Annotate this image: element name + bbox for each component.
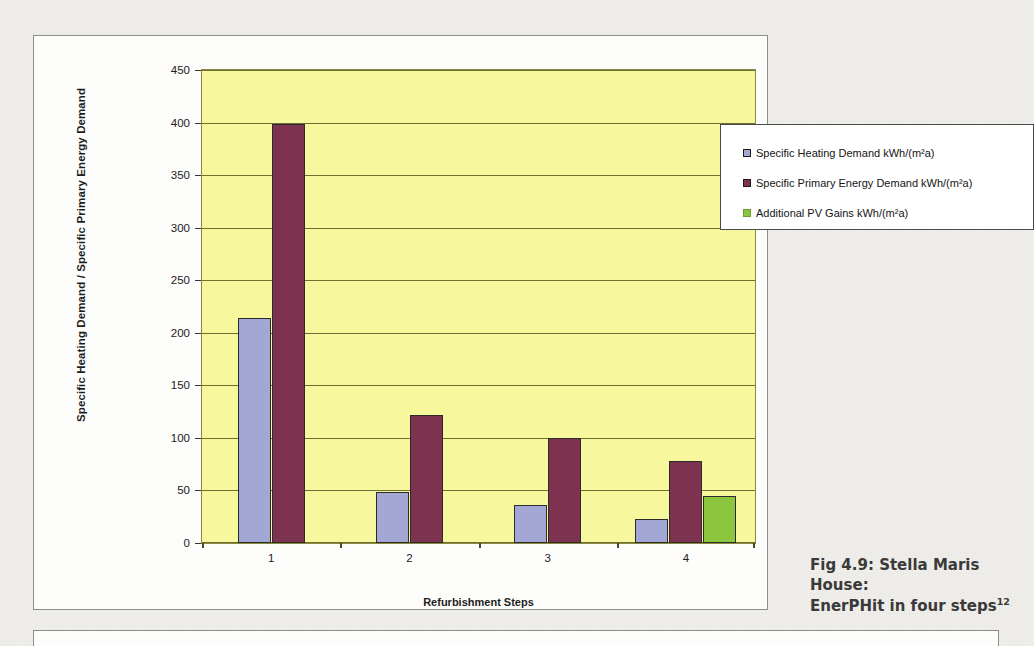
y-axis-tick-label: 150 <box>171 379 190 391</box>
y-axis-title: Specific Heating Demand / Specific Prima… <box>75 92 87 422</box>
x-axis-tick <box>479 543 481 548</box>
legend-swatch-icon <box>743 149 751 157</box>
legend-item-pv-gains: Additional PV Gains kWh/(m²a) <box>743 198 1033 228</box>
bar <box>410 415 443 543</box>
figure-frame: Specific Heating Demand / Specific Prima… <box>33 35 768 610</box>
figure-caption: Fig 4.9: Stella Maris House: EnerPHit in… <box>810 556 1025 616</box>
legend-swatch-icon <box>743 209 751 217</box>
gridline <box>202 70 755 71</box>
plot-area: 0501001502002503003504004501234 <box>201 69 756 544</box>
legend-item-primary-energy-demand: Specific Primary Energy Demand kWh/(m²a) <box>743 168 1033 198</box>
bar <box>635 519 668 543</box>
chart-legend: Specific Heating Demand kWh/(m²a) Specif… <box>720 124 1034 230</box>
x-axis-tick <box>340 543 342 548</box>
caption-line-2: EnerPHit in four steps <box>810 597 997 615</box>
x-axis-tick-label: 4 <box>683 552 689 564</box>
y-axis-tick <box>195 70 201 71</box>
x-axis-tick <box>202 543 204 548</box>
legend-item-heating-demand: Specific Heating Demand kWh/(m²a) <box>743 138 1033 168</box>
x-axis-title: Refurbishment Steps <box>201 596 756 608</box>
bar <box>669 461 702 543</box>
y-axis-tick <box>195 123 201 124</box>
y-axis-tick-label: 200 <box>171 327 190 339</box>
bar <box>238 318 271 543</box>
bar <box>514 505 547 543</box>
y-axis-tick-label: 350 <box>171 169 190 181</box>
legend-item-label: Specific Heating Demand kWh/(m²a) <box>756 147 935 159</box>
y-axis-tick <box>195 228 201 229</box>
y-axis-tick <box>195 543 201 544</box>
y-axis-tick-label: 250 <box>171 274 190 286</box>
caption-footnote-marker: 12 <box>997 596 1010 607</box>
bar <box>376 492 409 544</box>
bar <box>703 496 736 543</box>
x-axis-tick-label: 1 <box>268 552 274 564</box>
y-axis-tick <box>195 385 201 386</box>
x-axis-tick-label: 3 <box>544 552 550 564</box>
y-axis-tick <box>195 438 201 439</box>
y-axis-tick-label: 300 <box>171 222 190 234</box>
x-axis-tick-label: 2 <box>406 552 412 564</box>
y-axis-tick-label: 100 <box>171 432 190 444</box>
y-axis-tick <box>195 333 201 334</box>
legend-swatch-icon <box>743 179 751 187</box>
legend-item-label: Additional PV Gains kWh/(m²a) <box>756 207 908 219</box>
y-axis-tick <box>195 175 201 176</box>
y-axis-tick-label: 400 <box>171 117 190 129</box>
y-axis-tick-label: 50 <box>177 484 190 496</box>
bar <box>548 438 581 543</box>
x-axis-tick <box>617 543 619 548</box>
bar <box>272 124 305 543</box>
y-axis-tick-label: 450 <box>171 64 190 76</box>
caption-line-1: Fig 4.9: Stella Maris House: <box>810 556 979 594</box>
legend-item-label: Specific Primary Energy Demand kWh/(m²a) <box>756 177 972 189</box>
y-axis-tick-label: 0 <box>184 537 190 549</box>
y-axis-tick <box>195 490 201 491</box>
x-axis-tick <box>753 543 755 548</box>
next-figure-frame <box>33 630 999 646</box>
y-axis-tick <box>195 280 201 281</box>
